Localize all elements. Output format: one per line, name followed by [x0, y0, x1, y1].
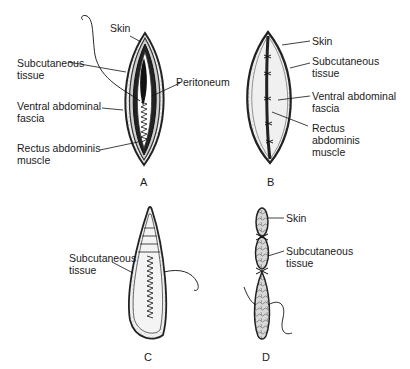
- label-a-rectus-abdominis-muscle: Rectus abdominis muscle: [17, 142, 100, 166]
- panel-d-illustration: [244, 208, 292, 339]
- label-b-skin: Skin: [312, 35, 332, 47]
- panel-d-leaders: [268, 218, 284, 256]
- panel-label-a: A: [140, 176, 147, 188]
- label-d-subcutaneous-tissue: Subcutaneous tissue: [286, 245, 353, 269]
- panel-c-illustration: [129, 207, 198, 339]
- label-a-subcutaneous-tissue: Subcutaneous tissue: [17, 57, 84, 81]
- panel-b-illustration: [247, 32, 291, 163]
- panel-label-c: C: [144, 351, 152, 363]
- label-d-skin: Skin: [286, 212, 306, 224]
- label-a-peritoneum: Peritoneum: [176, 76, 230, 88]
- label-b-rectus-abdominis-muscle: Rectus abdominis muscle: [312, 122, 360, 158]
- panel-label-b: B: [267, 176, 274, 188]
- label-a-skin: Skin: [110, 22, 130, 34]
- label-c-subcutaneous-tissue: Subcutaneous tissue: [69, 252, 136, 276]
- label-b-ventral-abdominal-fascia: Ventral abdominal fascia: [312, 90, 396, 114]
- label-a-ventral-abdominal-fascia: Ventral abdominal fascia: [17, 100, 101, 124]
- label-b-subcutaneous-tissue: Subcutaneous tissue: [312, 55, 379, 79]
- panel-label-d: D: [262, 351, 270, 363]
